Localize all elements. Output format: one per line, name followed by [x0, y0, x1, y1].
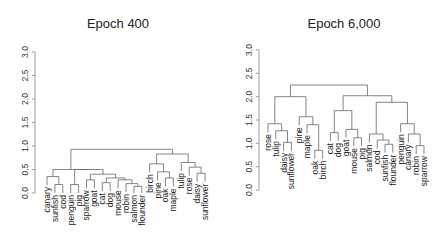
y-tick-label: 0.5 [244, 160, 254, 172]
dendrogram-1: 0.00.51.01.52.02.53.0rosetulipdaisysunfl… [244, 44, 429, 196]
y-tick-label: 2.5 [244, 67, 254, 79]
y-tick-label: 0.0 [244, 184, 254, 196]
y-tick-label: 2.0 [244, 90, 254, 102]
y-tick-label: 1.5 [244, 114, 254, 126]
leaf-label-birch: birch [318, 160, 328, 179]
y-tick-label: 1.0 [20, 140, 30, 152]
y-tick-label: 2.5 [20, 69, 30, 81]
y-tick-label: 2.0 [20, 93, 30, 105]
y-tick-label: 3.0 [244, 44, 254, 56]
y-tick-label: 1.5 [20, 116, 30, 128]
leaf-label-sunflower: sunflower [286, 153, 296, 190]
leaf-label-flounder: flounder [137, 195, 147, 226]
leaf-label-maple: maple [168, 188, 178, 211]
dendrogram-0: 0.00.51.01.52.02.53.0canarysunfishcodpen… [20, 46, 210, 226]
dendrogram-canvas: 0.00.51.01.52.02.53.0canarysunfishcodpen… [0, 0, 447, 234]
y-tick-label: 1.0 [244, 137, 254, 149]
leaf-label-maple: maple [302, 135, 312, 158]
y-tick-label: 3.0 [20, 46, 30, 58]
leaf-label-sunflower: sunflower [200, 184, 210, 221]
y-tick-label: 0.0 [20, 187, 30, 199]
y-tick-label: 0.5 [20, 163, 30, 175]
leaf-label-sparrow: sparrow [419, 155, 429, 186]
